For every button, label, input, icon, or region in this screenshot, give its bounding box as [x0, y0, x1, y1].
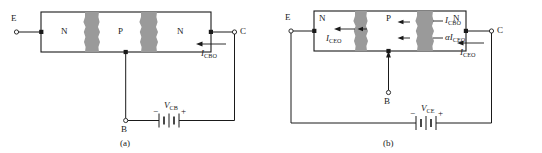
panel-caption-b: (b)	[383, 139, 394, 148]
current-label-iceo-lead-b: ICEO	[460, 48, 476, 57]
current-label-iceo-region-b: ICEO	[326, 34, 342, 43]
figure-panel-a: E B C N P N ICBO VCB − + (a)	[0, 0, 271, 153]
depletion-region-bc-a	[139, 12, 158, 52]
battery-minus-sign-b: −	[410, 109, 415, 118]
depletion-region-eb-a	[83, 12, 100, 52]
depletion-region-eb-b	[353, 11, 368, 51]
emitter-terminal-b[interactable]	[289, 29, 293, 33]
base-label-a: B	[121, 125, 127, 134]
base-terminal-a[interactable]	[124, 118, 128, 122]
battery-plus-sign-b: +	[438, 109, 443, 118]
panel-caption-a: (a)	[120, 139, 130, 148]
region-label-n-collector-a: N	[177, 27, 184, 36]
current-label-alpha-iceo-b: αICEO	[445, 33, 465, 42]
emitter-contact-b	[312, 29, 316, 33]
region-label-p-base-b: P	[386, 14, 391, 23]
emitter-label-b: E	[285, 13, 291, 22]
battery-symbol-b	[416, 116, 443, 130]
collector-terminal-a[interactable]	[232, 30, 236, 34]
figure-panel-b: E B C N P N ICEO ICBO αICEO ICEO VCE − +…	[271, 0, 542, 153]
collector-contact-a	[209, 30, 213, 34]
region-label-p-base-a: P	[118, 27, 123, 36]
panel-b-drawing	[271, 0, 542, 153]
collector-label-b: C	[497, 26, 503, 35]
region-label-n-emitter-a: N	[61, 27, 68, 36]
battery-plus-sign-a: +	[181, 107, 186, 116]
current-label-icbo-b: ICBO	[445, 16, 461, 25]
region-label-n-emitter-b: N	[319, 14, 326, 23]
base-label-b: B	[384, 97, 390, 106]
depletion-region-bc-b	[415, 11, 434, 51]
voltage-label-vcb-a: VCB	[164, 101, 178, 110]
collector-label-a: C	[240, 27, 246, 36]
base-terminal-b[interactable]	[386, 90, 390, 94]
collector-terminal-b[interactable]	[489, 29, 493, 33]
battery-minus-sign-a: −	[153, 107, 158, 116]
voltage-label-vce-b: VCE	[421, 104, 435, 113]
figure-root: E B C N P N ICBO VCB − + (a)	[0, 0, 542, 153]
emitter-contact-a	[39, 30, 43, 34]
emitter-terminal-a[interactable]	[14, 30, 18, 34]
current-label-icbo-a: ICBO	[201, 49, 217, 58]
emitter-label-a: E	[11, 14, 17, 23]
panel-a-drawing	[0, 0, 271, 153]
